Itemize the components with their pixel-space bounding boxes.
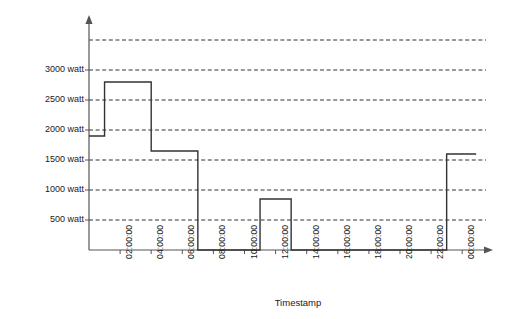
x-axis-arrow-icon (484, 246, 493, 253)
y-axis-tick-label: 1000 watt (45, 184, 84, 194)
axes (85, 15, 493, 254)
x-axis-tick-label: 22:00:00 (435, 225, 445, 259)
x-axis-tick-label: 20:00:00 (404, 225, 414, 259)
x-axis-tick-label: 00:00:00 (466, 225, 476, 259)
y-axis-tick-label: 2500 watt (45, 94, 84, 104)
y-axis-tick-label: 500 watt (50, 214, 84, 224)
y-axis-tick-label: 3000 watt (45, 64, 84, 74)
power-setpoint-chart-figure: Power Setpoint Timestamp 500 watt1000 wa… (0, 0, 508, 319)
x-axis-tick-label: 02:00:00 (124, 225, 134, 259)
y-axis-arrow-icon (85, 15, 92, 24)
x-axis-tick-label: 04:00:00 (155, 225, 165, 259)
x-axis-label: Timestamp (238, 297, 358, 308)
x-axis-tick-label: 10:00:00 (249, 225, 259, 259)
gridlines (89, 40, 486, 220)
x-axis-tick-label: 14:00:00 (311, 225, 321, 259)
x-axis-tick-label: 12:00:00 (280, 225, 290, 259)
y-axis-tick-labels: 500 watt1000 watt1500 watt2000 watt2500 … (20, 0, 84, 319)
x-axis-tick-label: 16:00:00 (342, 225, 352, 259)
x-axis-tick-label: 18:00:00 (373, 225, 383, 259)
y-axis-tick-label: 1500 watt (45, 154, 84, 164)
x-axis-tick-label: 08:00:00 (217, 225, 227, 259)
y-axis-tick-label: 2000 watt (45, 124, 84, 134)
x-axis-tick-label: 06:00:00 (186, 225, 196, 259)
